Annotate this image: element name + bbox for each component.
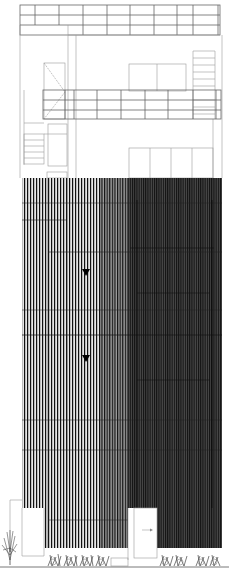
facade-screen <box>22 178 222 548</box>
elevation-drawing <box>0 0 229 577</box>
